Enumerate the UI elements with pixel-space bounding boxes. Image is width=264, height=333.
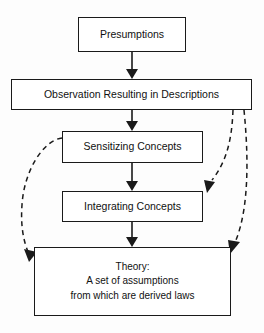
edge-observation-to-integrating-feedback [204,110,233,193]
node-sensitizing-concepts-label: Sensitizing Concepts [83,140,181,154]
edge-observation-to-sensitizing [126,110,138,131]
node-presumptions-label: Presumptions [100,28,164,42]
node-integrating-concepts[interactable]: Integrating Concepts [62,191,203,222]
node-theory-label-line2: A set of assumptions [86,274,178,289]
node-integrating-concepts-label: Integrating Concepts [84,200,181,214]
node-sensitizing-concepts[interactable]: Sensitizing Concepts [62,131,203,163]
edge-presumptions-to-observation [126,52,138,79]
edge-sensitizing-to-theory-feedback [22,138,62,262]
node-theory-label-line1: Theory: [116,260,150,275]
flow-diagram: Presumptions Observation Resulting in De… [0,0,264,333]
node-presumptions[interactable]: Presumptions [78,17,186,52]
edge-integrating-to-theory [126,222,138,247]
node-observation-label: Observation Resulting in Descriptions [44,88,219,102]
node-theory-label-line3: from which are derived laws [71,289,195,304]
edge-sensitizing-to-integrating [126,163,138,191]
node-theory[interactable]: Theory: A set of assumptions from which … [34,247,231,316]
node-observation[interactable]: Observation Resulting in Descriptions [11,79,252,110]
